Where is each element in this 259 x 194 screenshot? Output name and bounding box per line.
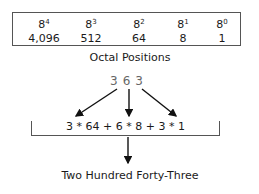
- arrow-left: [76, 89, 117, 116]
- result-label: Two Hundred Forty-Three: [40, 169, 220, 182]
- arrow-right: [142, 89, 176, 116]
- expression: 3 * 64 + 6 * 8 + 3 * 1: [31, 120, 220, 133]
- arrows: [0, 0, 259, 194]
